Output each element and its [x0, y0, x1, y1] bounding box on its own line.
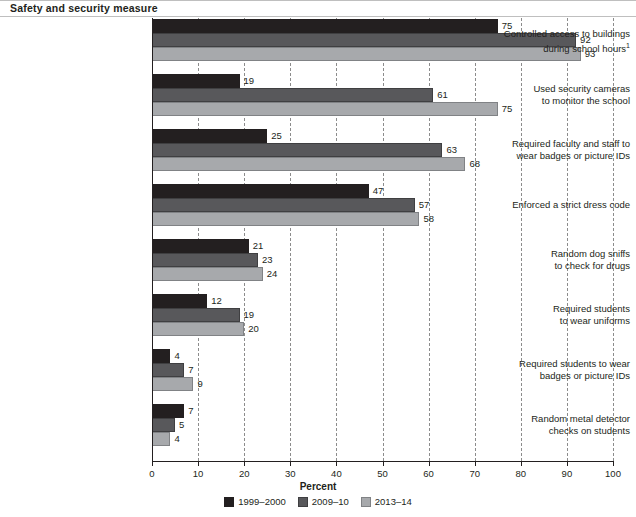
x-tick-label: 10 — [193, 468, 204, 479]
bar-value-label: 61 — [437, 89, 448, 100]
bar-value-label: 19 — [244, 75, 255, 86]
bar-row: 47 — [152, 184, 613, 198]
category-label-line: Required students to wear — [486, 358, 630, 370]
category-label: Required studentsto wear uniforms — [486, 303, 636, 327]
category-label: Required students to wearbadges or pictu… — [486, 358, 636, 382]
category-label: Required faculty and staff towear badges… — [486, 138, 636, 162]
bar-value-label: 24 — [267, 268, 278, 279]
x-axis-title: Percent — [0, 481, 636, 492]
bar[interactable] — [152, 349, 170, 363]
bar[interactable] — [152, 363, 184, 377]
bar[interactable] — [152, 418, 175, 432]
category-label-line: Required students — [486, 303, 630, 315]
legend-item[interactable]: 2009–10 — [298, 496, 349, 507]
category-label-line: during school hours1 — [486, 40, 630, 55]
x-tick — [613, 461, 614, 466]
category-label: Used security camerasto monitor the scho… — [486, 83, 636, 107]
x-tick-label: 100 — [605, 468, 621, 479]
legend-item[interactable]: 1999–2000 — [224, 496, 286, 507]
bar[interactable] — [152, 404, 184, 418]
legend-label: 1999–2000 — [238, 496, 286, 507]
category-label: Controlled access to buildingsduring sch… — [486, 28, 636, 55]
category-label-line: Random dog sniffs — [486, 248, 630, 260]
category-label-line: to wear uniforms — [486, 315, 630, 327]
bar-value-label: 7 — [188, 364, 193, 375]
category-label-line: Controlled access to buildings — [486, 28, 630, 40]
x-tick-label: 0 — [149, 468, 154, 479]
bar[interactable] — [152, 198, 415, 212]
bar[interactable] — [152, 88, 433, 102]
category-label-line: Used security cameras — [486, 83, 630, 95]
chart-legend: 1999–20002009–102013–14 — [0, 496, 636, 507]
bar[interactable] — [152, 184, 369, 198]
category-label: Random dog sniffsto check for drugs — [486, 248, 636, 272]
bar[interactable] — [152, 377, 193, 391]
bar[interactable] — [152, 157, 465, 171]
bar-value-label: 21 — [253, 240, 264, 251]
bar[interactable] — [152, 432, 170, 446]
category-label: Enforced a strict dress code — [486, 199, 636, 211]
x-tick — [244, 461, 245, 466]
y-axis-line — [152, 18, 153, 461]
category-label-line: Random metal detector — [486, 413, 630, 425]
bar-value-label: 7 — [188, 405, 193, 416]
bar-value-label: 9 — [197, 378, 202, 389]
x-tick — [152, 461, 153, 466]
category-label-line: to monitor the school — [486, 95, 630, 107]
x-tick-label: 70 — [469, 468, 480, 479]
legend-label: 2009–10 — [312, 496, 349, 507]
x-tick-label: 80 — [516, 468, 527, 479]
category-label-line: badges or picture IDs — [486, 370, 630, 382]
bar[interactable] — [152, 129, 267, 143]
x-tick — [290, 461, 291, 466]
header-top-rule — [0, 0, 636, 1]
bar-value-label: 19 — [244, 309, 255, 320]
x-tick — [336, 461, 337, 466]
bar-value-label: 12 — [211, 295, 222, 306]
category-label-line: Required faculty and staff to — [486, 138, 630, 150]
bar[interactable] — [152, 267, 263, 281]
bar[interactable] — [152, 253, 258, 267]
page-title: Safety and security measure — [10, 2, 158, 14]
legend-swatch — [298, 497, 308, 507]
x-tick — [475, 461, 476, 466]
category-label-line: wear badges or picture IDs — [486, 150, 630, 162]
chart-page: Safety and security measure 759293196175… — [0, 0, 636, 517]
bar-value-label: 5 — [179, 419, 184, 430]
bar-value-label: 63 — [446, 144, 457, 155]
bar[interactable] — [152, 102, 498, 116]
bar[interactable] — [152, 308, 240, 322]
bar[interactable] — [152, 143, 442, 157]
footnote-marker: 1 — [626, 42, 630, 49]
legend-swatch — [361, 497, 371, 507]
bar-value-label: 4 — [174, 433, 179, 444]
bar-value-label: 58 — [423, 213, 434, 224]
bar[interactable] — [152, 19, 498, 33]
bar[interactable] — [152, 239, 249, 253]
bar[interactable] — [152, 74, 240, 88]
header-bottom-rule — [0, 16, 636, 17]
x-tick-label: 90 — [562, 468, 573, 479]
bar-value-label: 25 — [271, 130, 282, 141]
x-tick-label: 20 — [239, 468, 250, 479]
x-tick — [567, 461, 568, 466]
x-tick — [383, 461, 384, 466]
bar[interactable] — [152, 212, 419, 226]
x-tick-label: 60 — [423, 468, 434, 479]
bar[interactable] — [152, 294, 207, 308]
bar[interactable] — [152, 322, 244, 336]
bar-value-label: 20 — [248, 323, 259, 334]
bar-value-label: 4 — [174, 350, 179, 361]
bar-value-label: 23 — [262, 254, 273, 265]
x-tick — [521, 461, 522, 466]
legend-label: 2013–14 — [375, 496, 412, 507]
x-tick-label: 40 — [331, 468, 342, 479]
legend-item[interactable]: 2013–14 — [361, 496, 412, 507]
bar-value-label: 57 — [419, 199, 430, 210]
legend-swatch — [224, 497, 234, 507]
category-label-line: checks on students — [486, 425, 630, 437]
x-tick-label: 30 — [285, 468, 296, 479]
x-tick — [429, 461, 430, 466]
category-label-line: Enforced a strict dress code — [486, 199, 630, 211]
category-label: Random metal detectorchecks on students — [486, 413, 636, 437]
